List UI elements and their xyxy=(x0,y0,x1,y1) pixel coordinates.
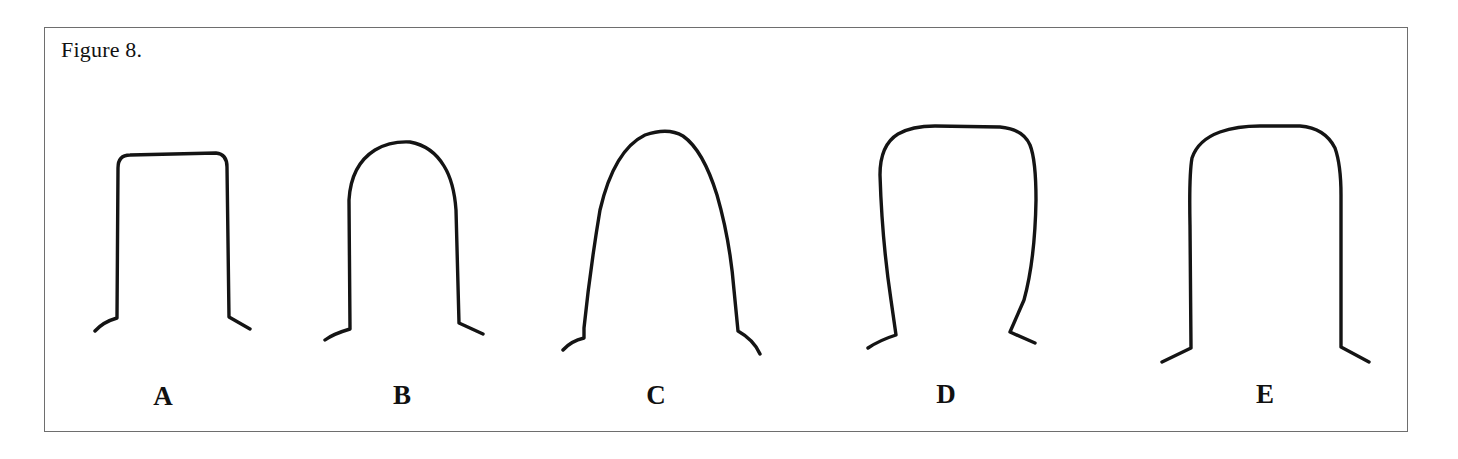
shape-e-label: E xyxy=(1256,381,1274,408)
shape-e-outline xyxy=(1162,126,1369,362)
shape-a-outline xyxy=(95,153,250,331)
shape-b-label: B xyxy=(393,382,411,409)
shape-b-outline xyxy=(325,142,483,340)
shape-drawings xyxy=(0,0,1458,459)
shape-c-outline xyxy=(563,131,760,354)
shape-d-outline xyxy=(868,126,1036,348)
shape-d-label: D xyxy=(936,381,956,408)
shape-c-label: C xyxy=(646,382,666,409)
shape-a-label: A xyxy=(153,383,173,410)
